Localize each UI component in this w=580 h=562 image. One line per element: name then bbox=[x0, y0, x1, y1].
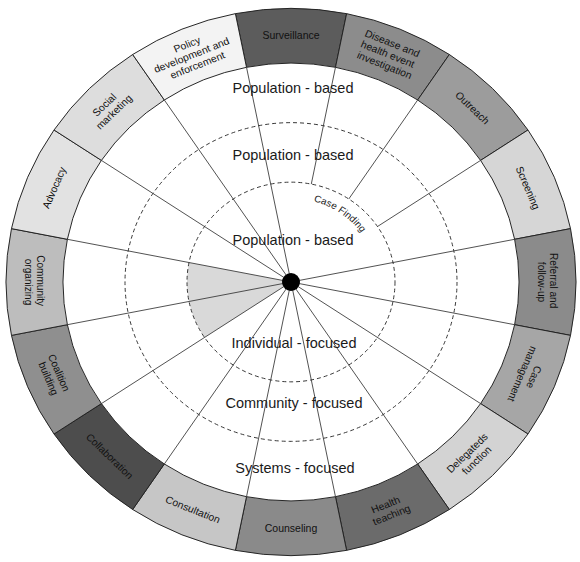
case-finding-text: Case Finding bbox=[313, 193, 369, 234]
level-individual-focused: Individual - focused bbox=[232, 335, 357, 351]
highlight-wedge bbox=[187, 263, 291, 338]
intervention-wheel-diagram: Case Finding Surveillance Disease and he… bbox=[0, 0, 580, 562]
label-line: Community bbox=[35, 255, 46, 307]
label-surveillance: Surveillance bbox=[262, 30, 319, 41]
center-hub bbox=[282, 273, 300, 291]
label-community-organizing: Community organizing bbox=[23, 255, 46, 309]
label-line: organizing bbox=[23, 259, 34, 306]
spoke-line bbox=[377, 160, 480, 226]
label-line: Counseling bbox=[265, 523, 318, 534]
level-systems-focused: Systems - focused bbox=[235, 460, 354, 476]
level-population-inner: Population - based bbox=[233, 232, 354, 248]
label-line: follow-up bbox=[536, 262, 547, 303]
spoke-line bbox=[349, 100, 418, 199]
level-community-focused: Community - focused bbox=[226, 395, 363, 411]
label-line: Referral and bbox=[548, 253, 559, 309]
case-finding-label: Case Finding bbox=[313, 193, 369, 234]
level-population-outer: Population - based bbox=[233, 80, 354, 96]
label-counseling: Counseling bbox=[265, 523, 318, 534]
label-line: Surveillance bbox=[262, 30, 319, 41]
level-population-middle: Population - based bbox=[233, 147, 354, 163]
